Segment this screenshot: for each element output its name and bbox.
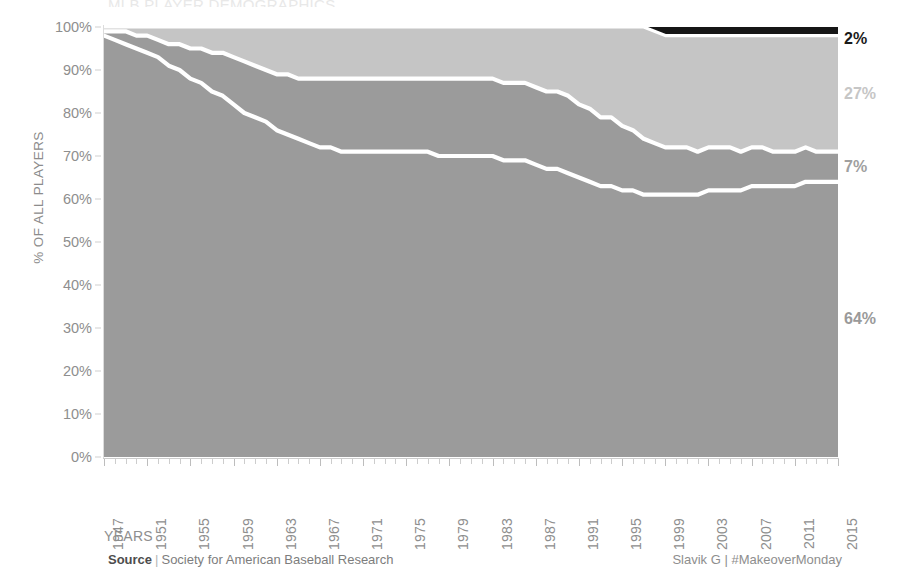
x-tick-label: 1959 [240, 518, 256, 550]
x-tick-mark [806, 459, 807, 464]
x-tick-mark [266, 459, 267, 464]
y-tick-mark [95, 113, 101, 114]
x-tick-mark [471, 459, 472, 464]
x-tick-mark [320, 459, 321, 466]
x-tick-mark [633, 459, 634, 464]
x-tick-mark [395, 459, 396, 464]
x-tick-mark [428, 459, 429, 464]
stacked-area-plot [104, 27, 838, 457]
x-tick-label: 1987 [542, 518, 558, 550]
x-tick-label: 1979 [455, 518, 471, 550]
x-tick-mark [363, 459, 364, 466]
chart-footer: Source|Society for American Baseball Res… [0, 552, 904, 585]
x-tick-mark [698, 459, 699, 464]
x-tick-mark [752, 459, 753, 466]
y-tick-mark [95, 156, 101, 157]
x-tick-mark [212, 459, 213, 464]
y-tick-label: 10% [63, 406, 92, 422]
x-tick-mark [773, 459, 774, 464]
x-tick-mark [201, 459, 202, 464]
end-label-2pct: 2% [844, 30, 867, 48]
chart-page: MLB PLAYER DEMOGRAPHICS % OF ALL PLAYERS… [0, 0, 904, 585]
x-tick-label: 1995 [628, 518, 644, 550]
y-tick-mark [95, 242, 101, 243]
x-tick-mark [460, 459, 461, 464]
x-tick-mark [115, 459, 116, 464]
x-tick-mark [147, 459, 148, 466]
x-tick-mark [169, 459, 170, 464]
x-tick-mark [385, 459, 386, 464]
x-tick-mark [180, 459, 181, 464]
x-tick-mark [234, 459, 235, 466]
x-axis-tick-labels: 1947195119551959196319671971197519791983… [104, 466, 838, 524]
x-tick-mark [568, 459, 569, 464]
y-tick-mark [95, 27, 101, 28]
y-tick-mark [95, 199, 101, 200]
series-end-labels: 2%27%7%64% [844, 0, 904, 470]
x-tick-mark [514, 459, 515, 464]
y-tick-mark [95, 414, 101, 415]
x-tick-mark [374, 459, 375, 464]
end-label-7pct: 7% [844, 158, 867, 176]
y-tick-mark [95, 457, 101, 458]
y-tick-label: 40% [63, 277, 92, 293]
x-tick-mark [547, 459, 548, 464]
y-tick-mark [95, 328, 101, 329]
x-tick-mark [136, 459, 137, 464]
x-tick-mark [406, 459, 407, 466]
x-tick-mark [655, 459, 656, 464]
x-tick-mark [331, 459, 332, 464]
x-tick-mark [341, 459, 342, 464]
x-tick-mark [719, 459, 720, 464]
x-tick-mark [190, 459, 191, 466]
x-tick-label: 1967 [326, 518, 342, 550]
x-tick-mark [795, 459, 796, 466]
credit-line: Slavik G | #MakeoverMonday [672, 552, 842, 567]
y-tick-label: 20% [63, 363, 92, 379]
x-tick-mark [223, 459, 224, 464]
x-tick-mark [730, 459, 731, 464]
x-tick-mark [255, 459, 256, 464]
end-label-27pct: 27% [844, 85, 876, 103]
x-tick-label: 2011 [801, 518, 817, 549]
x-tick-label: 1955 [196, 518, 212, 550]
x-tick-mark [158, 459, 159, 464]
y-tick-label: 80% [63, 105, 92, 121]
x-axis-ticks [104, 459, 838, 466]
x-tick-mark [277, 459, 278, 466]
source-value: Society for American Baseball Research [161, 552, 393, 567]
x-tick-mark [579, 459, 580, 466]
x-tick-mark [104, 459, 105, 466]
y-tick-mark [95, 285, 101, 286]
x-tick-label: 1963 [283, 518, 299, 550]
x-tick-mark [309, 459, 310, 464]
x-tick-mark [611, 459, 612, 464]
x-tick-mark [439, 459, 440, 464]
y-tick-label: 30% [63, 320, 92, 336]
x-tick-mark [622, 459, 623, 466]
source-label: Source [108, 552, 152, 567]
x-tick-mark [665, 459, 666, 466]
x-tick-mark [493, 459, 494, 466]
x-tick-label: 1983 [499, 518, 515, 550]
x-tick-mark [525, 459, 526, 464]
x-tick-mark [417, 459, 418, 464]
x-tick-mark [687, 459, 688, 464]
x-tick-mark [352, 459, 353, 464]
y-tick-label: 0% [71, 449, 92, 465]
x-tick-label: 1975 [412, 518, 428, 550]
y-tick-label: 50% [63, 234, 92, 250]
x-tick-mark [557, 459, 558, 464]
x-tick-label: 1999 [671, 518, 687, 550]
x-tick-mark [244, 459, 245, 464]
y-tick-label: 70% [63, 148, 92, 164]
end-label-64pct: 64% [844, 310, 876, 328]
x-tick-mark [784, 459, 785, 464]
x-tick-mark [838, 459, 839, 466]
x-tick-mark [590, 459, 591, 464]
x-tick-label: 2003 [714, 518, 730, 550]
x-tick-label: 1971 [369, 518, 385, 550]
y-tick-mark [95, 371, 101, 372]
y-axis-tick-labels: 0%10%20%30%40%50%60%70%80%90%100% [0, 0, 104, 470]
x-tick-mark [644, 459, 645, 464]
